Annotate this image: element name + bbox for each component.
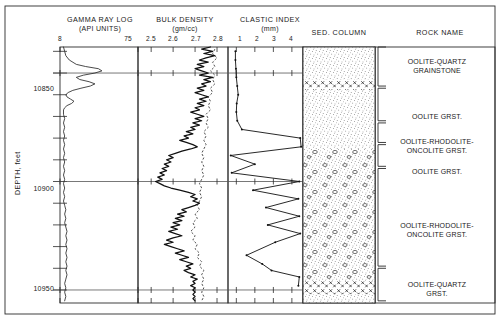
rock-name-brackets	[378, 47, 386, 301]
lithology-interval-sand-stipple	[303, 47, 375, 80]
clastic-data-point	[236, 120, 238, 122]
figure-border	[5, 6, 495, 314]
x-axis-tick-marks	[60, 47, 292, 303]
clastic-data-point	[237, 94, 239, 96]
rock-name-bracket-5	[378, 268, 386, 301]
rock-name-bracket-0	[378, 47, 386, 86]
clastic-data-point	[234, 50, 236, 52]
lithology-interval-oolite-stipple	[303, 149, 375, 281]
clastic-data-point	[298, 181, 300, 183]
bulk-density-solid-curve	[156, 47, 215, 301]
clastic-data-point	[261, 263, 263, 265]
clastic-data-point	[230, 154, 232, 156]
gamma-track-frame	[60, 47, 138, 303]
gamma-ray-curve	[63, 47, 101, 301]
clastic-data-point	[265, 207, 267, 209]
clastic-data-point	[241, 128, 243, 130]
clastic-data-point	[235, 111, 237, 113]
clastic-data-point	[267, 224, 269, 226]
rock-name-bracket-3	[378, 145, 386, 167]
clastic-data-point	[297, 198, 299, 200]
lithology-interval-quartz-hatch	[303, 281, 375, 294]
clastic-data-point	[298, 276, 300, 278]
clastic-data-point	[235, 68, 237, 70]
clastic-data-point	[246, 254, 248, 256]
clastic-data-point	[235, 76, 237, 78]
clastic-data-point	[300, 146, 302, 148]
clastic-track-frame	[228, 47, 303, 303]
clastic-data-point	[297, 285, 299, 287]
lithology-interval-sand-stipple	[303, 294, 375, 303]
clastic-data-point	[299, 137, 301, 139]
lithology-interval-sand-stipple	[303, 90, 375, 149]
clastic-data-point	[274, 241, 276, 243]
clastic-data-point	[252, 189, 254, 191]
clastic-data-point	[299, 233, 301, 235]
rock-name-bracket-2	[378, 123, 386, 143]
clastic-data-point	[231, 172, 233, 174]
lithology-interval-quartz-hatch	[303, 80, 375, 91]
clastic-data-point	[271, 269, 273, 271]
clastic-data-point	[236, 102, 238, 104]
clastic-data-point	[234, 59, 236, 61]
clastic-data-point	[254, 163, 256, 165]
rock-track-frame	[375, 47, 495, 303]
clastic-index-curve	[231, 51, 301, 285]
well-log-figure: GAMMA RAY LOG (API UNITS) BULK DENSITY (…	[0, 0, 500, 320]
sedimentary-column	[303, 47, 375, 303]
clastic-data-point	[236, 85, 238, 87]
track-frames	[60, 47, 495, 303]
depth-major-lines	[53, 73, 303, 290]
log-plot-canvas	[0, 0, 500, 320]
density-track-frame	[138, 47, 228, 303]
clastic-data-point	[298, 215, 300, 217]
clastic-index-markers	[230, 50, 302, 286]
rock-name-bracket-1	[378, 88, 386, 121]
rock-name-bracket-4	[378, 168, 386, 266]
